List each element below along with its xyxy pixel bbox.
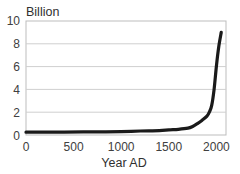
y-axis: 0 2 4 6 8 10	[7, 14, 21, 142]
plot-area	[26, 21, 226, 135]
x-tick-label: 0	[23, 140, 30, 154]
x-tick-label: 1000	[108, 140, 135, 154]
y-tick-label: 8	[13, 37, 20, 51]
y-tick-label: 2	[13, 106, 20, 120]
x-tick-label: 500	[64, 140, 84, 154]
x-tick-label: 2000	[203, 140, 230, 154]
x-axis-title: Year AD	[101, 156, 146, 170]
population-chart: 0 2 4 6 8 10 Billion 0 500 1000 1500 200…	[0, 0, 240, 174]
y-tick-label: 0	[13, 129, 20, 143]
x-axis: 0 500 1000 1500 2000	[23, 140, 230, 154]
y-tick-label: 10	[7, 14, 21, 28]
y-tick-label: 4	[13, 83, 20, 97]
x-tick-label: 1500	[155, 140, 182, 154]
y-tick-label: 6	[13, 60, 20, 74]
y-axis-title: Billion	[26, 5, 59, 19]
